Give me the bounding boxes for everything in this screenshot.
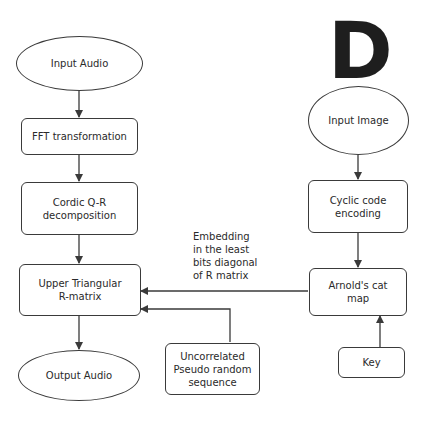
arnold-label-line1: Arnold's cat [328, 279, 387, 292]
input-image-node: Input Image [308, 86, 409, 155]
input-audio-label: Input Audio [51, 57, 109, 70]
upper-label-line1: Upper Triangular [38, 277, 121, 290]
fft-label: FFT transformation [32, 130, 127, 143]
output-audio-label: Output Audio [46, 369, 112, 382]
pseudo-random-sequence-node: Uncorrelated Pseudo random sequence [165, 343, 260, 395]
prng-label-line1: Uncorrelated [180, 350, 245, 363]
embed-line4: of R matrix [193, 269, 257, 282]
input-image-label: Input Image [328, 114, 388, 127]
prng-label-line2: Pseudo random [174, 363, 252, 376]
cordic-qr-node: Cordic Q-R decomposition [21, 182, 138, 235]
upper-label-line2: R-matrix [59, 290, 102, 303]
output-audio-node: Output Audio [18, 350, 140, 401]
embedding-edge-label: Embedding in the least bits diagonal of … [193, 230, 257, 282]
arnolds-cat-map-node: Arnold's cat map [309, 268, 407, 316]
arnold-label-line2: map [347, 292, 369, 305]
embed-line1: Embedding [193, 230, 257, 243]
cyclic-label-line1: Cyclic code [330, 194, 387, 207]
key-label: Key [362, 356, 380, 369]
cyclic-label-line2: encoding [335, 207, 381, 220]
embed-line3: bits diagonal [193, 256, 257, 269]
cordic-label-line1: Cordic Q-R [53, 196, 107, 209]
embed-line2: in the least [193, 243, 257, 256]
fft-transformation-node: FFT transformation [21, 118, 138, 155]
cyclic-code-node: Cyclic code encoding [308, 180, 408, 233]
upper-triangular-node: Upper Triangular R-matrix [19, 264, 141, 316]
watermark-image-d: D [328, 12, 393, 90]
cordic-label-line2: decomposition [43, 209, 116, 222]
input-audio-node: Input Audio [16, 36, 143, 91]
key-node: Key [338, 347, 405, 378]
prng-label-line3: sequence [188, 376, 236, 389]
